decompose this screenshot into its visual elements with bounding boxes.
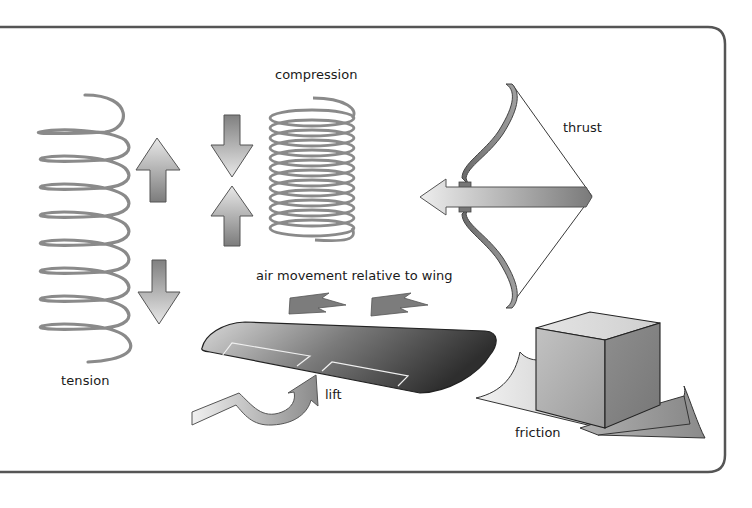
compression-arrow-up-icon [211, 186, 253, 246]
thrust-arrow-left-icon [420, 179, 592, 215]
tension-spring [38, 95, 130, 362]
lift-arrow-icon [192, 375, 318, 425]
compression-label: compression [275, 67, 357, 82]
tension-arrow-up-icon [136, 138, 180, 202]
air-movement-arrow-icon [289, 290, 346, 314]
friction-label: friction [515, 425, 561, 440]
compression-arrow-down-icon [211, 115, 253, 177]
forces-diagram: tension compression thrust air [0, 0, 752, 508]
air-movement-arrow-icon-2 [371, 293, 428, 316]
compression-spring [270, 98, 354, 241]
tension-label: tension [61, 373, 110, 388]
friction-cube [536, 312, 660, 428]
lift-label: lift [325, 387, 342, 402]
thrust-label: thrust [563, 120, 602, 135]
air-movement-label: air movement relative to wing [256, 268, 453, 283]
wing [202, 322, 496, 393]
tension-arrow-down-icon [138, 260, 180, 324]
